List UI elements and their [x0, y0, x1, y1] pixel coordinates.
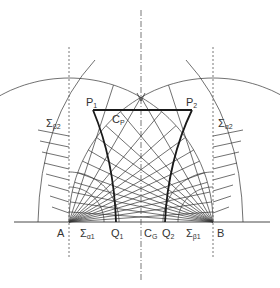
- cross-line: [48, 185, 69, 191]
- cross-line: [40, 141, 69, 147]
- label-p1: P1: [86, 97, 97, 109]
- left-boundary-arc: [38, 60, 95, 222]
- cross-line: [213, 163, 237, 169]
- cross-line: [44, 163, 69, 169]
- right-boundary-arc: [186, 60, 243, 222]
- cross-line: [213, 141, 241, 147]
- cross-line: [46, 174, 69, 180]
- fan-line-b: [141, 97, 213, 222]
- cross-line: [50, 196, 69, 202]
- label-sigma-beta2: Σβ2: [46, 118, 61, 130]
- label-sigma-alpha1: Σα1: [80, 228, 95, 240]
- label-cp: CP: [112, 114, 125, 126]
- cross-line: [213, 185, 233, 191]
- fan-line-a: [69, 97, 141, 222]
- cross-line: [213, 207, 229, 213]
- label-q1: Q1: [111, 228, 123, 240]
- label-a: A: [57, 228, 64, 239]
- label-sigma-beta1: Σβ1: [186, 228, 201, 240]
- slip-line-diagram: [0, 0, 280, 288]
- cross-line: [38, 130, 69, 136]
- label-p2: P2: [186, 97, 197, 109]
- concentric-arcs: [0, 60, 280, 222]
- outer-arc-b: [69, 78, 280, 222]
- label-sigma-alpha2: Σα2: [218, 118, 233, 130]
- label-b: B: [217, 228, 224, 239]
- label-q2: Q2: [162, 228, 174, 240]
- guide-lines: [14, 10, 270, 280]
- cross-line: [213, 174, 235, 180]
- cross-line: [52, 207, 69, 213]
- cross-line: [213, 196, 231, 202]
- label-cg: CG: [144, 228, 157, 240]
